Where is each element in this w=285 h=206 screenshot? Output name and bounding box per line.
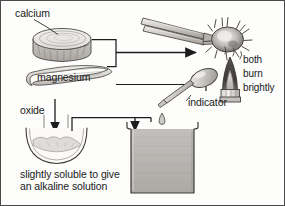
dropper-pipette-icon [158, 65, 220, 125]
label-oxide: oxide [20, 104, 45, 116]
label-brightly: brightly [243, 82, 274, 94]
beaker-icon [127, 122, 198, 193]
evaporating-dish-icon [26, 128, 87, 164]
diagram-canvas: calcium magnesium both burn brightly oxi… [0, 0, 285, 206]
label-soluble-line1: slightly soluble to give [20, 168, 120, 180]
label-calcium: calcium [15, 7, 50, 19]
label-soluble-caption: slightly soluble to give an alkaline sol… [20, 168, 120, 193]
label-soluble-line2: an alkaline solution [20, 180, 120, 192]
tongs-icon [141, 18, 213, 45]
calcium-disc-icon [33, 20, 91, 62]
label-both: both [243, 54, 262, 66]
bunsen-burner-flame-icon [220, 47, 242, 102]
label-magnesium: magnesium [37, 71, 90, 83]
label-burn: burn [243, 68, 263, 80]
arrow-right-icon [92, 40, 196, 67]
label-indicator: indicator [188, 96, 227, 108]
